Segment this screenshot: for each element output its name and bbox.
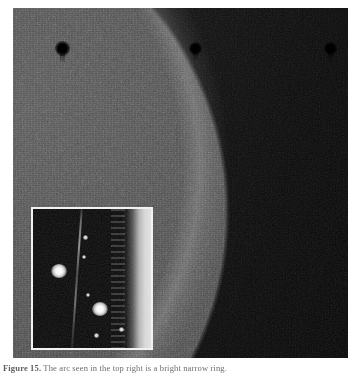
inset-grain-texture [33, 209, 153, 350]
figure-root: Figure 15. The arc seen in the top right… [0, 0, 360, 378]
dark-spot-2-tail [193, 53, 198, 61]
figure-caption: Figure 15. The arc seen in the top right… [3, 363, 357, 377]
figure-caption-label: Figure 15. [3, 363, 41, 373]
inset-panel [31, 207, 153, 350]
figure-caption-text: The arc seen in the top right is a brigh… [43, 363, 227, 373]
dark-spot-3-tail [328, 53, 333, 61]
dark-spot-1-tail [60, 54, 65, 63]
